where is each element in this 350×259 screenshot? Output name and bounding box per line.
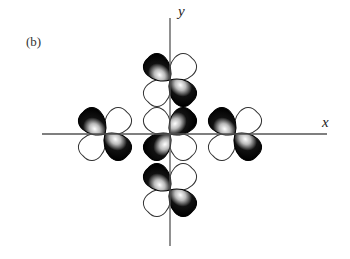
x-axis-label: x — [322, 114, 329, 131]
y-axis-label: y — [178, 3, 185, 20]
orbital-diagram: (b) y x — [0, 0, 350, 259]
orbital-svg — [0, 0, 350, 259]
panel-label: (b) — [26, 34, 41, 50]
